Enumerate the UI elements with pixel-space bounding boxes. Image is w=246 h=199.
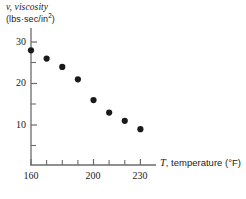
data-point bbox=[122, 118, 128, 124]
data-point bbox=[106, 109, 112, 115]
data-point bbox=[59, 64, 65, 70]
data-point bbox=[90, 97, 96, 103]
viscosity-temperature-scatter-figure: v, viscosity (lbs·sec/in2) T, temperatur… bbox=[0, 0, 246, 199]
x-axis-ticks bbox=[31, 159, 140, 165]
data-point bbox=[75, 76, 81, 82]
data-point bbox=[28, 47, 34, 53]
plot-area bbox=[0, 0, 246, 199]
axis-lines bbox=[30, 28, 156, 166]
data-point bbox=[137, 126, 143, 132]
data-point bbox=[44, 56, 50, 62]
data-point-series bbox=[28, 47, 144, 132]
y-axis-ticks bbox=[31, 42, 37, 146]
